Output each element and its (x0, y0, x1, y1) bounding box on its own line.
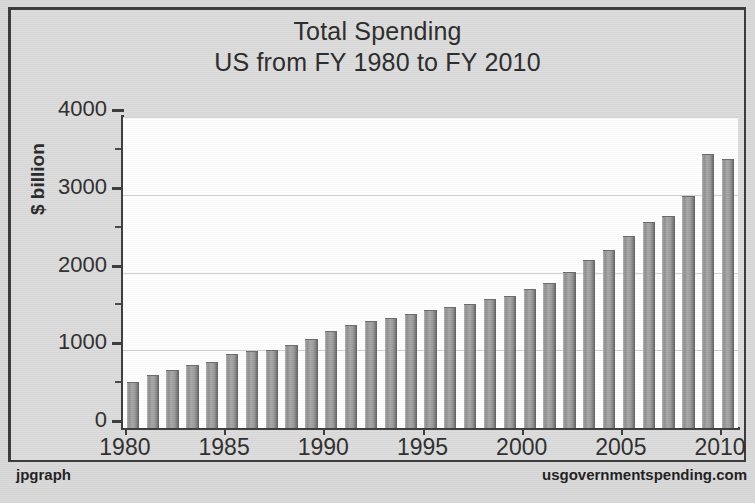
bar-1987 (266, 350, 278, 428)
bar-2006 (643, 222, 655, 428)
x-tick-label-2005: 2005 (595, 434, 646, 461)
x-tick-label-1985: 1985 (199, 434, 250, 461)
y-tick-label-3000: 3000 (11, 174, 107, 200)
bar-2010 (722, 159, 734, 428)
y-tick-label-4000: 4000 (11, 96, 107, 122)
bar-2001 (543, 283, 555, 428)
x-tick-label-2000: 2000 (496, 434, 547, 461)
chart-title-block: Total Spending US from FY 1980 to FY 201… (11, 16, 744, 78)
y-tick-label-2000: 2000 (11, 252, 107, 278)
bar-1989 (305, 339, 317, 428)
bar-1995 (424, 310, 436, 428)
bar-2005 (623, 236, 635, 428)
bar-1983 (186, 365, 198, 428)
x-tick-label-2010: 2010 (694, 434, 745, 461)
bar-1993 (385, 318, 397, 428)
bar-1986 (246, 351, 258, 428)
bar-1996 (444, 307, 456, 428)
y-tick-label-0: 0 (11, 407, 107, 433)
gridline-4000 (123, 117, 738, 118)
y-tick-label-1000: 1000 (11, 329, 107, 355)
bar-2000 (524, 289, 536, 428)
plot-area (123, 117, 738, 428)
x-tick-label-1990: 1990 (298, 434, 349, 461)
y-tick-4000 (112, 109, 124, 112)
chart-subtitle: US from FY 1980 to FY 2010 (11, 46, 744, 78)
chart-title: Total Spending (11, 16, 744, 46)
bar-1990 (325, 331, 337, 428)
bar-2004 (603, 250, 615, 428)
gridline-3000 (123, 195, 738, 196)
bar-2008 (682, 196, 694, 428)
footer-attribution-left: jpgraph (16, 466, 71, 483)
bar-2002 (563, 272, 575, 428)
chart-screenshot: Total Spending US from FY 1980 to FY 201… (0, 0, 755, 503)
bar-1994 (405, 314, 417, 428)
bar-1984 (206, 362, 218, 428)
chart-frame: Total Spending US from FY 1980 to FY 201… (8, 7, 746, 462)
bar-1980 (127, 382, 139, 428)
bar-1992 (365, 321, 377, 428)
bar-1999 (504, 296, 516, 428)
footer-attribution-right: usgovernmentspending.com (542, 466, 747, 483)
bar-1997 (464, 304, 476, 428)
bar-1982 (166, 370, 178, 428)
x-tick-label-1980: 1980 (99, 434, 150, 461)
bar-1985 (226, 354, 238, 428)
bar-2009 (702, 154, 714, 428)
x-tick-label-1995: 1995 (397, 434, 448, 461)
bar-1991 (345, 325, 357, 428)
bar-2003 (583, 260, 595, 428)
bar-1981 (147, 375, 159, 428)
bar-1998 (484, 299, 496, 428)
bar-2007 (662, 216, 674, 428)
bar-1988 (285, 345, 297, 428)
